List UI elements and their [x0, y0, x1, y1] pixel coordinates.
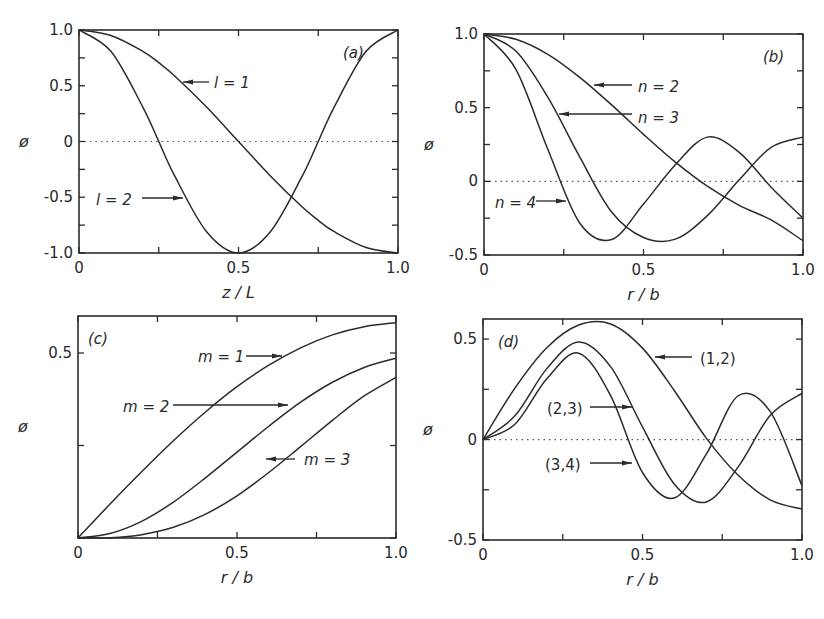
y-tick-label: 0 — [63, 133, 73, 151]
x-axis-label: r / b — [221, 568, 253, 587]
plot-frame — [483, 319, 802, 540]
y-tick-label: -0.5 — [449, 246, 478, 264]
curve-annotation: n = 4 — [495, 194, 536, 212]
curve-m-2 — [78, 358, 396, 538]
arrowhead-icon — [278, 403, 288, 408]
arrowhead-icon — [556, 199, 566, 204]
x-tick-label: 1.0 — [386, 259, 410, 277]
panel-b: 00.51.01.00.50-0.5r / bø(b)n = 2n = 3n =… — [423, 25, 815, 304]
y-tick-label: 0.5 — [48, 344, 72, 362]
figure: 00.51.01.00.50-0.5-1.0z / Lø(a)l = 1l = … — [0, 0, 824, 619]
x-tick-label: 1.0 — [791, 261, 815, 279]
x-axis-label: r / b — [626, 570, 658, 589]
curve-annotation: m = 1 — [198, 348, 244, 366]
arrowhead-icon — [594, 83, 604, 88]
x-tick-label: 1.0 — [384, 544, 408, 562]
arrowhead-icon — [622, 405, 632, 410]
y-tick-label: -1.0 — [44, 244, 73, 262]
arrowhead-icon — [173, 196, 183, 201]
x-tick-label: 0 — [478, 546, 488, 564]
x-tick-label: 0 — [74, 259, 84, 277]
arrowhead-icon — [559, 112, 569, 117]
panel-c: 00.51.00.5r / bø(c)m = 1m = 2m = 3 — [17, 316, 408, 587]
arrowhead-icon — [266, 457, 276, 462]
y-axis-label: ø — [422, 420, 433, 439]
x-axis-label: r / b — [627, 285, 659, 304]
x-tick-label: 1.0 — [790, 546, 814, 564]
curve-annotation: (2,3) — [547, 400, 583, 418]
y-tick-label: 0 — [468, 172, 478, 190]
y-tick-label: 1.0 — [454, 25, 478, 43]
y-tick-label: 0.5 — [453, 330, 477, 348]
curve-1-2 — [483, 322, 802, 510]
y-axis-label: ø — [17, 417, 28, 436]
arrowhead-icon — [655, 355, 665, 360]
x-tick-label: 0.5 — [225, 544, 249, 562]
panel-tag: (a) — [343, 44, 364, 62]
arrowhead-icon — [622, 461, 632, 466]
curve-annotation: l = 2 — [96, 191, 132, 209]
x-axis-label: z / L — [221, 283, 255, 302]
curve-annotation: (3,4) — [545, 456, 581, 474]
panel-d: 00.51.00.50-0.5r / bø(d)(1,2)(2,3)(3,4) — [422, 319, 814, 589]
y-tick-label: -0.5 — [44, 188, 73, 206]
x-tick-label: 0 — [479, 261, 489, 279]
x-tick-label: 0.5 — [631, 546, 655, 564]
curve-annotation: n = 3 — [638, 109, 679, 127]
curve-l-1 — [79, 30, 398, 253]
panel-tag: (c) — [88, 330, 108, 348]
y-tick-label: -0.5 — [448, 531, 477, 549]
y-tick-label: 1.0 — [49, 21, 73, 39]
y-tick-label: 0.5 — [454, 99, 478, 117]
curve-annotation: l = 1 — [214, 74, 250, 92]
y-tick-label: 0 — [467, 431, 477, 449]
panel-tag: (d) — [498, 333, 519, 351]
arrowhead-icon — [183, 80, 193, 85]
curve-annotation: m = 2 — [123, 398, 169, 416]
panel-tag: (b) — [763, 48, 784, 66]
y-axis-label: ø — [423, 135, 434, 154]
curve-annotation: (1,2) — [700, 350, 736, 368]
panel-a: 00.51.01.00.50-0.5-1.0z / Lø(a)l = 1l = … — [18, 21, 410, 302]
curve-annotation: n = 2 — [638, 78, 679, 96]
y-tick-label: 0.5 — [49, 77, 73, 95]
x-tick-label: 0.5 — [632, 261, 656, 279]
curve-annotation: m = 3 — [304, 451, 350, 469]
y-axis-label: ø — [18, 132, 29, 151]
x-tick-label: 0 — [73, 544, 83, 562]
x-tick-label: 0.5 — [227, 259, 251, 277]
plot-frame — [484, 34, 803, 255]
